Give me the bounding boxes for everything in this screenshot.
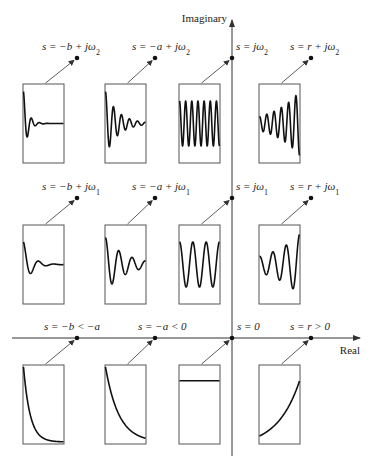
pole-group-p-r-jw1: s = r + jω1 bbox=[259, 180, 339, 304]
pointer-arrow bbox=[46, 201, 74, 224]
impulse-response-curve bbox=[260, 235, 300, 289]
pole-label: s = −b < −a bbox=[44, 320, 100, 332]
impulse-response-curve bbox=[24, 367, 64, 442]
pole-label: s = jω2 bbox=[236, 40, 268, 57]
pointer-arrow bbox=[282, 341, 308, 364]
pole-group-p-a-jw1: s = −a + jω1 bbox=[105, 180, 190, 304]
pointer-arrow bbox=[128, 341, 153, 364]
impulse-response-curve bbox=[24, 242, 64, 274]
pole-group-p-0-real: s = 0 bbox=[179, 320, 260, 444]
pole-group-p-0-jw1: s = jω1 bbox=[179, 180, 268, 304]
imaginary-axis-label: Imaginary bbox=[182, 12, 228, 24]
pole-group-p-b-jw2: s = −b + jω2 bbox=[23, 40, 100, 163]
pole-group-p-b-real: s = −b < −a bbox=[23, 320, 100, 444]
pole-label: s = −a + jω2 bbox=[132, 40, 190, 57]
response-box bbox=[23, 365, 64, 444]
pole-dot bbox=[230, 196, 235, 201]
pointer-arrow bbox=[202, 61, 229, 83]
pole-label: s = −b + jω1 bbox=[42, 180, 100, 197]
response-box bbox=[179, 365, 220, 444]
pole-dot bbox=[309, 196, 314, 201]
pointer-arrow bbox=[202, 341, 229, 364]
pole-dot bbox=[153, 196, 158, 201]
s-plane-diagram: Imaginary Real s = −b + jω2s = −a + jω2s… bbox=[0, 0, 383, 468]
pointer-arrow bbox=[46, 60, 74, 83]
pole-label: s = −b + jω2 bbox=[42, 40, 100, 57]
pole-dot bbox=[230, 56, 235, 61]
pole-dot bbox=[309, 56, 314, 61]
pole-dot bbox=[75, 196, 80, 201]
pointer-arrow bbox=[202, 201, 229, 224]
pole-label: s = 0 bbox=[237, 320, 260, 332]
pole-label: s = −a + jω1 bbox=[132, 180, 190, 197]
pole-group-p-a-jw2: s = −a + jω2 bbox=[105, 40, 190, 163]
impulse-response-curve bbox=[106, 238, 146, 284]
pole-group-p-r-jw2: s = r + jω2 bbox=[259, 40, 339, 163]
response-box bbox=[105, 225, 146, 304]
pointer-arrow bbox=[46, 341, 74, 364]
pole-group-p-b-jw1: s = −b + jω1 bbox=[23, 180, 100, 304]
pointer-arrow bbox=[282, 201, 308, 224]
response-box bbox=[259, 225, 300, 304]
pole-locations: s = −b + jω2s = −a + jω2s = jω2s = r + j… bbox=[23, 40, 339, 444]
pole-dot bbox=[309, 336, 314, 341]
pole-label: s = jω1 bbox=[236, 180, 268, 197]
impulse-response-curve bbox=[260, 381, 300, 436]
pole-group-p-r-real: s = r > 0 bbox=[259, 320, 330, 444]
pole-label: s = r + jω1 bbox=[290, 180, 339, 197]
pointer-arrow bbox=[282, 61, 308, 83]
impulse-response-curve bbox=[24, 92, 64, 137]
impulse-response-curve bbox=[106, 92, 146, 147]
pole-dot bbox=[153, 336, 158, 341]
pole-label: s = r + jω2 bbox=[290, 40, 339, 57]
s-plane-svg: Imaginary Real s = −b + jω2s = −a + jω2s… bbox=[0, 0, 383, 468]
pole-dot bbox=[230, 336, 235, 341]
pointer-arrow bbox=[128, 201, 153, 224]
impulse-response-curve bbox=[106, 367, 146, 438]
pointer-arrow bbox=[128, 61, 152, 83]
response-box bbox=[105, 365, 146, 444]
impulse-response-curve bbox=[180, 101, 220, 146]
pole-dot bbox=[75, 56, 80, 61]
real-axis-label: Real bbox=[340, 344, 360, 356]
pole-label: s = −a < 0 bbox=[138, 320, 187, 332]
pole-group-p-0-jw2: s = jω2 bbox=[179, 40, 268, 163]
response-box bbox=[179, 225, 220, 304]
pole-dot bbox=[153, 56, 158, 61]
pole-group-p-a-real: s = −a < 0 bbox=[105, 320, 187, 444]
pole-label: s = r > 0 bbox=[290, 320, 330, 332]
impulse-response-curve bbox=[260, 96, 300, 156]
impulse-response-curve bbox=[180, 242, 220, 287]
pole-dot bbox=[75, 336, 80, 341]
